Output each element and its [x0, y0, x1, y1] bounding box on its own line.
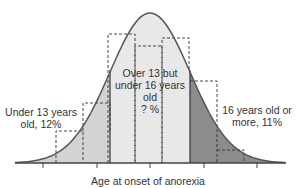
label-under-13: Under 13 years old, 12%	[4, 106, 78, 130]
label-13-to-16: Over 13 but under 16 years old ? %	[110, 67, 190, 115]
region-under-13	[15, 0, 110, 163]
region-16-plus	[190, 0, 286, 163]
label-16-plus-line1: 16 years old or	[222, 104, 292, 116]
label-13-to-16-line1: Over 13 but	[110, 67, 190, 79]
label-13-to-16-line3: ? %	[110, 103, 190, 115]
label-13-to-16-line2: under 16 years old	[110, 79, 190, 103]
label-under-13-line2: old, 12%	[4, 118, 78, 130]
label-16-plus-line2: more, 11%	[222, 116, 292, 128]
label-16-plus: 16 years old or more, 11%	[222, 104, 292, 128]
x-axis-title: Age at onset of anorexia	[0, 175, 296, 187]
label-under-13-line1: Under 13 years	[4, 106, 78, 118]
